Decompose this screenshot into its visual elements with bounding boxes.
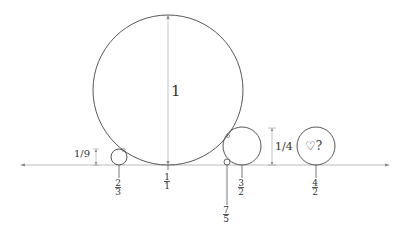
ford-circles-diagram <box>0 0 406 236</box>
fraction-1-1: 1 1 <box>164 173 170 190</box>
fraction-numerator: 4 <box>312 179 318 187</box>
fraction-denominator: 3 <box>115 188 121 196</box>
fraction-numerator: 3 <box>238 179 244 187</box>
fraction-3-2: 3 2 <box>238 179 244 196</box>
fraction-numerator: 7 <box>223 206 229 214</box>
label-one-ninth: 1/9 <box>74 148 90 159</box>
fraction-numerator: 1 <box>164 173 170 181</box>
fraction-4-2: 4 2 <box>312 179 318 196</box>
fraction-denominator: 5 <box>223 215 229 223</box>
diameter-arrow-1 <box>167 15 170 165</box>
diameter-arrow-1-9 <box>93 149 99 165</box>
fraction-numerator: 2 <box>115 179 121 187</box>
big-circle-label: 1 <box>171 82 181 100</box>
fraction-2-3: 2 3 <box>115 179 121 196</box>
circle-7-5 <box>224 159 230 165</box>
mystery-label: ♡? <box>305 139 322 153</box>
fraction-denominator: 1 <box>164 182 170 190</box>
fraction-denominator: 2 <box>238 188 244 196</box>
fraction-7-5: 7 5 <box>223 206 229 223</box>
number-line <box>20 164 390 167</box>
fraction-denominator: 2 <box>312 188 318 196</box>
label-one-quarter: 1/4 <box>275 140 293 153</box>
